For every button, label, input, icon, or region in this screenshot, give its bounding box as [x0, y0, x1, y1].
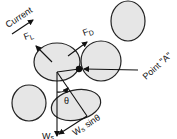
top-right-grain [111, 1, 145, 41]
weight-label: Ws [42, 131, 55, 139]
right-grain [81, 41, 121, 81]
lower-left-grain [12, 85, 46, 121]
grain-force-diagram: Current FL FD Point "A" θ Ws Ws sinθ [0, 0, 177, 139]
lift-force-label: FL [22, 29, 35, 43]
drag-force-label: FD [81, 25, 95, 39]
point-a-label: Point "A" [141, 50, 174, 81]
angle-label: θ [64, 96, 69, 106]
current-label: Current [4, 5, 35, 30]
angle-arc [57, 88, 68, 92]
